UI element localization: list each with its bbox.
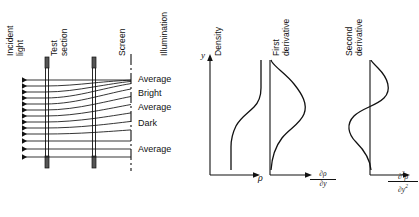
illumination-band-4: Average	[138, 144, 171, 154]
second-derivative-numerator: ∂2ρ	[388, 169, 418, 182]
second-derivative-curve	[349, 60, 388, 170]
illumination-band-0: Average	[138, 74, 171, 84]
illumination-band-1: Bright	[138, 88, 162, 98]
plot-title-second-derivative: Second derivative	[345, 8, 364, 56]
illumination-band-3: Dark	[138, 118, 157, 128]
illumination-band-2: Average	[138, 102, 171, 112]
incident-arrowheads	[22, 77, 27, 160]
second-derivative-denominator: ∂y2	[388, 182, 418, 194]
plot-title-first-derivative: First derivative	[272, 8, 291, 56]
density-y-axis-label: y	[201, 50, 205, 60]
light-rays	[22, 80, 131, 157]
first-derivative-curve	[271, 60, 305, 170]
figure-canvas: Incident light Test section Screen Illum…	[0, 0, 419, 217]
plot-title-density: Density	[214, 8, 224, 56]
second-derivative-x-axis-label: ∂2ρ ∂y2	[388, 169, 418, 194]
